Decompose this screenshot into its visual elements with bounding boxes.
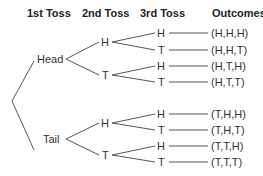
- header-3rd-toss: 3rd Toss: [140, 7, 185, 19]
- header-1st-toss: 1st Toss: [27, 7, 71, 19]
- node-3rd: T: [158, 44, 165, 56]
- node-3rd: H: [157, 108, 165, 120]
- outcome: (T,T,T): [211, 156, 242, 168]
- node-tail: Tail: [43, 133, 60, 145]
- node-2nd: T: [102, 149, 109, 161]
- node-head: Head: [37, 53, 63, 65]
- node-3rd: H: [157, 140, 165, 152]
- header-2nd-toss: 2nd Toss: [82, 7, 129, 19]
- outcome: (H,T,H): [211, 60, 246, 72]
- node-3rd: H: [157, 27, 165, 39]
- node-2nd: H: [101, 36, 109, 48]
- outcome: (H,T,T): [211, 76, 245, 88]
- node-3rd: T: [158, 156, 165, 168]
- outcome: (T,T,H): [211, 140, 243, 152]
- header-outcomes: Outcomes: [212, 7, 263, 19]
- node-3rd: T: [158, 124, 165, 136]
- coin-toss-tree-diagram: 1st Toss 2nd Toss 3rd Toss Outcomes Head…: [0, 0, 263, 176]
- outcome: (H,H,T): [211, 44, 247, 56]
- outcome: (H,H,H): [211, 27, 248, 39]
- outcome: (T,H,H): [211, 108, 246, 120]
- node-2nd: H: [101, 117, 109, 129]
- node-3rd: H: [157, 60, 165, 72]
- node-3rd: T: [158, 76, 165, 88]
- node-2nd: T: [102, 69, 109, 81]
- outcome: (T,H,T): [211, 124, 245, 136]
